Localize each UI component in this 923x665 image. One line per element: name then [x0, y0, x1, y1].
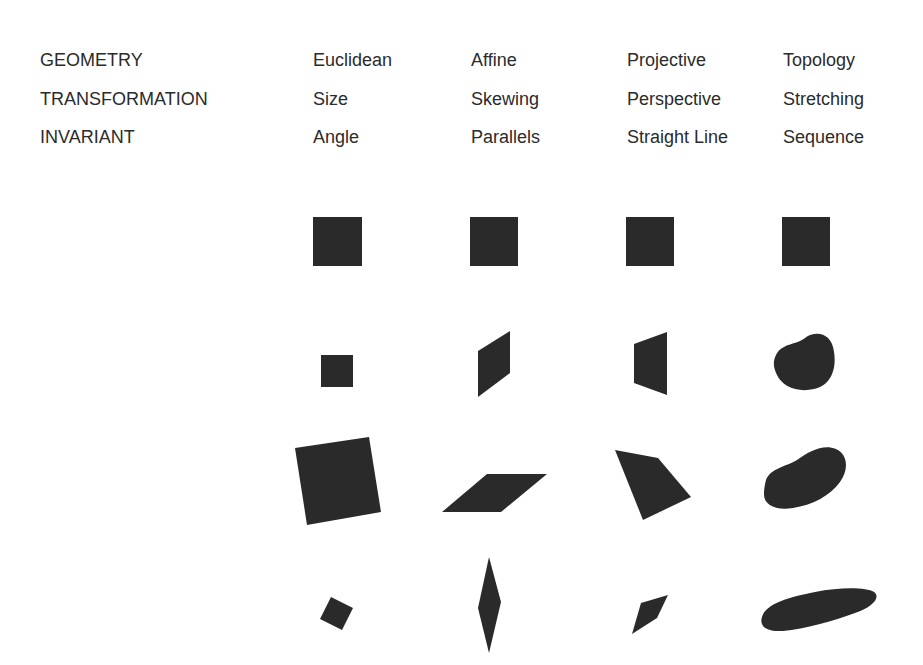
- affine-flat-parallelogram: [442, 474, 547, 512]
- euclidean-small-square: [321, 355, 353, 387]
- shape-grid: [0, 0, 923, 665]
- projective-perspective-trapezoid: [634, 332, 667, 395]
- euclidean-original-square: [313, 217, 362, 266]
- topology-rounded-blob: [774, 334, 835, 390]
- topology-original-square: [782, 217, 830, 266]
- euclidean-rotated-large-square: [295, 437, 381, 525]
- topology-elongated-ellipse: [761, 588, 876, 631]
- projective-irregular-quadrilateral: [615, 450, 691, 520]
- projective-small-quadrilateral: [632, 595, 668, 634]
- topology-bean-blob: [764, 447, 846, 508]
- affine-skewed-parallelogram: [478, 331, 510, 397]
- affine-thin-diamond: [478, 557, 501, 653]
- projective-original-square: [626, 217, 674, 266]
- euclidean-rotated-small-square: [320, 597, 353, 630]
- affine-original-square: [470, 217, 518, 266]
